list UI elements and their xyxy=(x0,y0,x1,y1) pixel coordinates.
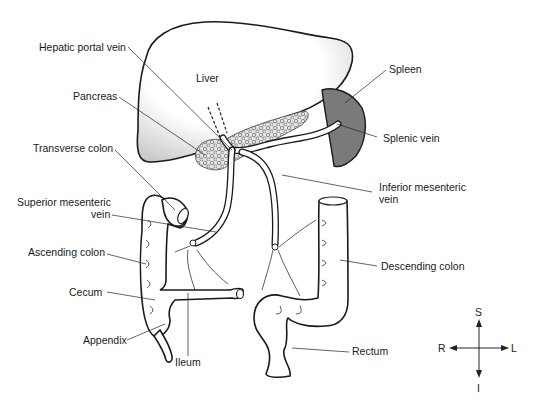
label-cecum: Cecum xyxy=(69,286,103,298)
leader-spleen xyxy=(345,70,386,103)
label-liver: Liver xyxy=(196,72,219,84)
leader-inferior-mesenteric-vein xyxy=(282,175,372,192)
label-spleen: Spleen xyxy=(389,63,422,75)
arrow-right-icon xyxy=(501,345,509,351)
label-pancreas: Pancreas xyxy=(73,90,117,102)
label-descending-colon: Descending colon xyxy=(381,260,465,272)
arrow-down-icon xyxy=(476,370,482,378)
compass-right: R xyxy=(438,342,446,354)
arrow-left-icon xyxy=(449,345,457,351)
label-transverse-colon: Transverse colon xyxy=(33,142,113,154)
arrow-up-icon xyxy=(476,319,482,327)
leader-rectum xyxy=(292,348,349,352)
orientation-compass: S I R L xyxy=(438,306,517,394)
descending-colon-lumen xyxy=(319,197,347,205)
label-inferior-mesenteric-vein-1: Inferior mesenteric xyxy=(379,181,466,193)
hepatic-portal-diagram: Liver Hepatic portal vein Pancreas Trans… xyxy=(0,0,533,404)
compass-superior: S xyxy=(475,306,482,318)
vein-opening xyxy=(272,244,278,250)
label-splenic-vein: Splenic vein xyxy=(383,132,440,144)
appendix xyxy=(154,330,172,362)
label-ileum: Ileum xyxy=(175,356,201,368)
label-superior-mesenteric-vein-2: vein xyxy=(91,208,110,220)
descending-colon xyxy=(254,199,348,378)
vein-opening xyxy=(190,240,196,246)
label-ascending-colon: Ascending colon xyxy=(28,246,105,258)
label-superior-mesenteric-vein-1: Superior mesenteric xyxy=(17,196,111,208)
compass-left: L xyxy=(511,342,517,354)
label-appendix: Appendix xyxy=(83,334,128,346)
label-rectum: Rectum xyxy=(352,345,388,357)
compass-inferior: I xyxy=(477,382,480,394)
inferior-mesenteric-vein xyxy=(242,152,276,244)
label-inferior-mesenteric-vein-2: vein xyxy=(379,193,398,205)
label-hepatic-portal-vein: Hepatic portal vein xyxy=(39,41,126,53)
